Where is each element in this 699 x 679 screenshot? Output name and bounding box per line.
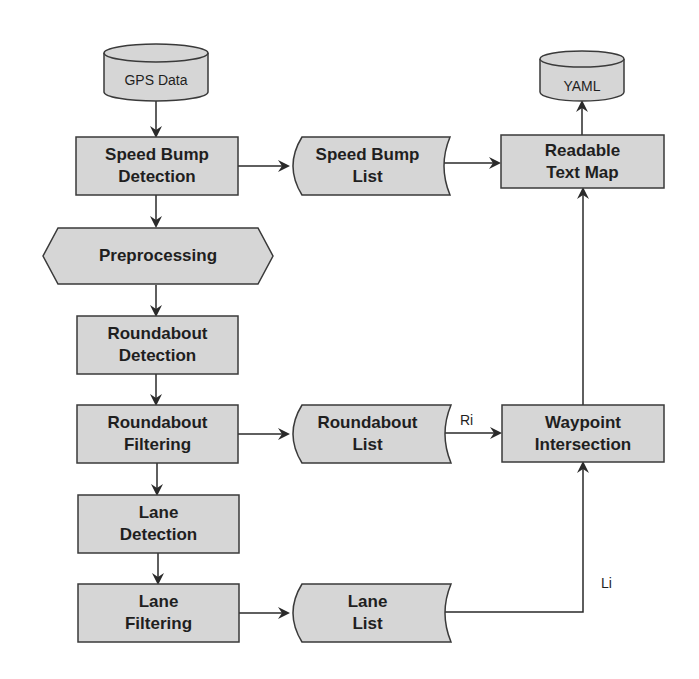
label-line-1: Readable	[545, 140, 621, 162]
edge-label-ri: Ri	[460, 412, 473, 428]
label-line-2: Filtering	[125, 613, 192, 635]
label-gps-data: GPS Data	[104, 68, 208, 92]
label-lane-filtering: Lane Filtering	[78, 584, 239, 642]
label-preprocessing: Preprocessing	[43, 228, 273, 284]
label-roundabout-detection: Roundabout Detection	[77, 316, 238, 374]
label-line-1: Lane	[348, 591, 388, 613]
label-line-1: Lane	[139, 591, 179, 613]
label-line-2: List	[352, 434, 382, 456]
label-line-2: Intersection	[535, 434, 631, 456]
label-readable-text-map: Readable Text Map	[501, 135, 664, 188]
label-line-1: Speed Bump	[105, 144, 209, 166]
label-line-2: Text Map	[546, 162, 618, 184]
label-speed-bump-detection: Speed Bump Detection	[76, 137, 238, 195]
label-roundabout-list: Roundabout List	[290, 405, 445, 463]
label-line-1: Waypoint	[545, 412, 621, 434]
label-line-1: Roundabout	[107, 323, 207, 345]
label-line-2: Filtering	[124, 434, 191, 456]
label-line-1: Roundabout	[107, 412, 207, 434]
label-line-2: Detection	[118, 166, 195, 188]
label-waypoint-intersection: Waypoint Intersection	[502, 405, 664, 462]
edge-lane-list-to-waypoint	[445, 463, 583, 612]
label-line-1: Roundabout	[317, 412, 417, 434]
label-line-2: Detection	[119, 345, 196, 367]
label-lane-list: Lane List	[290, 584, 445, 642]
label-line-1: Lane	[139, 502, 179, 524]
label-yaml: YAML	[540, 75, 624, 97]
label-speed-bump-list: Speed Bump List	[290, 137, 445, 195]
label-line-2: List	[352, 166, 382, 188]
label-lane-detection: Lane Detection	[78, 495, 239, 553]
label-line-1: Speed Bump	[316, 144, 420, 166]
label-line-2: List	[352, 613, 382, 635]
edge-label-li: Li	[601, 575, 612, 591]
label-roundabout-filtering: Roundabout Filtering	[77, 405, 238, 463]
label-line-2: Detection	[120, 524, 197, 546]
